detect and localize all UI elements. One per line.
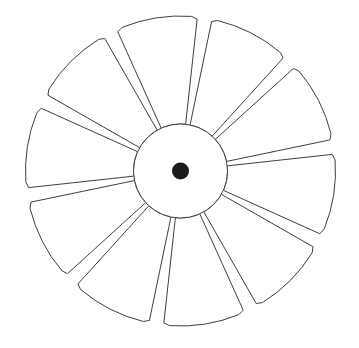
flower-line-drawing: Outline drawing of a ten-petal flower sh… — [0, 0, 359, 348]
center-dot — [172, 163, 189, 180]
